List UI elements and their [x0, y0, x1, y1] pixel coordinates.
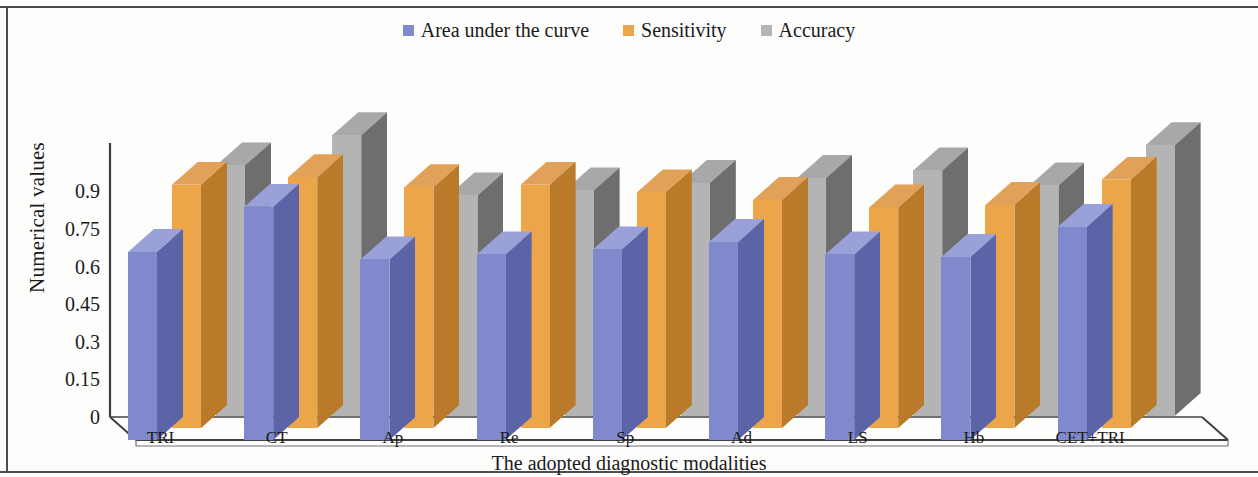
bar-front-face [1058, 227, 1087, 440]
bar-3d [941, 234, 996, 440]
y-axis-title: Numerical values [25, 103, 50, 333]
y-axis-tick-labels: 00.150.30.450.60.750.9 [0, 0, 104, 477]
bar-side-face [1087, 204, 1113, 440]
bar-side-face [666, 169, 692, 428]
x-axis-tick-label: Sp [616, 428, 634, 448]
bar-side-face [622, 226, 648, 440]
y-axis-tick-label: 0.6 [0, 255, 100, 278]
bar-side-face [157, 229, 183, 440]
bar-front-face [709, 242, 738, 440]
bar-3d [244, 184, 299, 440]
y-axis-tick-label: 0 [0, 406, 100, 429]
bar-side-face [201, 162, 227, 428]
x-axis-tick-label: CET+TRI [1056, 428, 1125, 448]
x-axis-tick-label: Re [500, 428, 519, 448]
bar-side-face [506, 231, 532, 440]
bar-3d [709, 219, 764, 440]
bar-3d [1058, 204, 1113, 440]
bar-side-face [854, 231, 880, 440]
bar-side-face [433, 164, 459, 428]
x-axis-tick-label: LS [848, 428, 868, 448]
y-axis-tick-label: 0.9 [0, 180, 100, 203]
x-axis-tick-label: Ap [383, 428, 404, 448]
chart-figure: Area under the curveSensitivityAccuracy … [0, 0, 1258, 477]
x-axis-tick-label: CT [266, 428, 288, 448]
y-axis-tick-label: 0.15 [0, 368, 100, 391]
bar-front-face [941, 257, 970, 440]
bar-side-face [782, 177, 808, 428]
bar-side-face [550, 162, 576, 428]
bar-3d [360, 236, 415, 440]
bar-side-face [898, 184, 924, 428]
bar-side-face [273, 184, 299, 440]
bar-front-face [593, 249, 622, 440]
y-axis-tick-label: 0.75 [0, 217, 100, 240]
bar-front-face [825, 254, 854, 440]
bar-side-face [389, 236, 415, 440]
bar-side-face [317, 154, 343, 428]
x-axis-tick-label: TRI [147, 428, 174, 448]
bar-3d [128, 229, 183, 440]
x-axis-title: The adopted diagnostic modalities [0, 452, 1258, 475]
x-axis-tick-label: Ad [731, 428, 752, 448]
x-axis-tick-label: Hb [964, 428, 985, 448]
plot-area: 00.150.30.450.60.750.9 TRICTApReSpAdLSHb… [0, 0, 1258, 477]
bar-front-face [360, 259, 389, 440]
bar-side-face [1175, 122, 1201, 416]
bar-3d [477, 231, 532, 440]
bar-front-face [477, 254, 506, 440]
bar-side-face [1131, 157, 1157, 428]
bar-side-face [1014, 182, 1040, 428]
bar-front-face [244, 207, 273, 440]
bar-3d [825, 231, 880, 440]
bar-side-face [738, 219, 764, 440]
y-axis-tick-label: 0.3 [0, 330, 100, 353]
bar-3d [593, 226, 648, 440]
bar-side-face [970, 234, 996, 440]
bar-front-face [128, 252, 157, 440]
y-axis-tick-label: 0.45 [0, 293, 100, 316]
